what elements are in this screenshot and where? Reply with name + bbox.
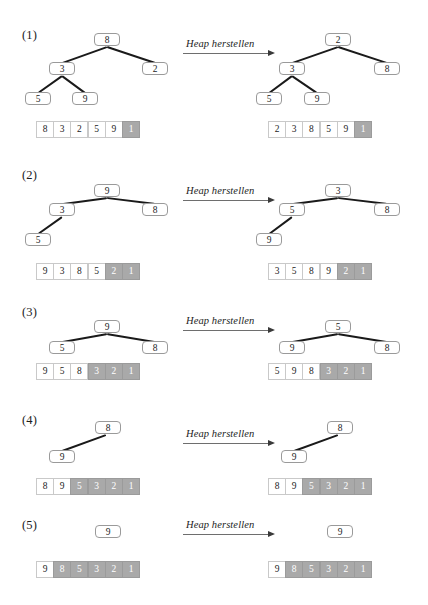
step-label-4: (4) <box>22 413 37 428</box>
array-cell: 9 <box>337 121 355 138</box>
arrow-line <box>183 53 269 54</box>
array-cell: 3 <box>285 121 303 138</box>
array-right-5: 985321 <box>268 561 372 578</box>
array-cell: 8 <box>53 561 71 578</box>
tree-node: 8 <box>142 203 168 216</box>
arrow-label: Heap herstellen <box>186 428 254 439</box>
tree-node: 9 <box>327 525 353 538</box>
array-cell: 1 <box>354 263 372 280</box>
array-cell: 5 <box>88 263 106 280</box>
array-cell: 2 <box>105 478 123 495</box>
array-cell: 8 <box>285 561 303 578</box>
array-cell: 3 <box>320 561 338 578</box>
tree-node: 9 <box>94 184 120 197</box>
array-cell: 5 <box>320 121 338 138</box>
array-cell: 5 <box>268 363 286 380</box>
tree-node: 2 <box>142 62 168 75</box>
tree-node: 8 <box>327 421 353 434</box>
array-cell: 5 <box>70 478 88 495</box>
tree-node: 8 <box>94 33 120 46</box>
array-cell: 1 <box>122 121 140 138</box>
step-label-5: (5) <box>22 518 37 533</box>
array-right-2: 358921 <box>268 263 372 280</box>
tree-node: 9 <box>72 92 98 105</box>
array-left-1: 832591 <box>36 121 140 138</box>
array-cell: 2 <box>337 363 355 380</box>
array-cell: 3 <box>88 561 106 578</box>
tree-node: 3 <box>325 184 351 197</box>
arrow-line <box>183 534 269 535</box>
tree-node: 5 <box>256 92 282 105</box>
array-left-5: 985321 <box>36 561 140 578</box>
array-cell: 1 <box>354 363 372 380</box>
array-cell: 1 <box>354 121 372 138</box>
tree-node: 9 <box>279 341 305 354</box>
array-cell: 8 <box>36 121 54 138</box>
tree-node: 9 <box>95 525 121 538</box>
tree-node: 5 <box>279 203 305 216</box>
array-cell: 8 <box>268 478 286 495</box>
array-cell: 5 <box>70 561 88 578</box>
array-cell: 2 <box>105 263 123 280</box>
array-cell: 1 <box>354 478 372 495</box>
array-cell: 8 <box>302 363 320 380</box>
arrow-head-icon <box>268 50 275 56</box>
array-cell: 1 <box>122 263 140 280</box>
step-label-1: (1) <box>22 28 37 43</box>
tree-node: 3 <box>49 203 75 216</box>
array-cell: 8 <box>36 478 54 495</box>
tree-node: 9 <box>304 92 330 105</box>
arrow-line <box>183 443 269 444</box>
array-cell: 1 <box>354 561 372 578</box>
array-cell: 9 <box>105 121 123 138</box>
array-cell: 2 <box>105 561 123 578</box>
array-cell: 9 <box>53 478 71 495</box>
arrow-head-icon <box>268 531 275 537</box>
arrow-head-icon <box>268 440 275 446</box>
array-cell: 3 <box>268 263 286 280</box>
array-cell: 9 <box>36 561 54 578</box>
arrow-line <box>183 200 269 201</box>
array-cell: 9 <box>36 363 54 380</box>
array-cell: 3 <box>53 263 71 280</box>
tree-node: 5 <box>325 320 351 333</box>
array-cell: 9 <box>285 478 303 495</box>
array-left-4: 895321 <box>36 478 140 495</box>
array-cell: 1 <box>122 561 140 578</box>
arrow-label: Heap herstellen <box>186 38 254 49</box>
tree-node: 8 <box>374 341 400 354</box>
tree-node: 9 <box>49 450 75 463</box>
array-cell: 8 <box>70 263 88 280</box>
heap-sort-figure: (1)Heap herstellen8325983259123859238591… <box>0 0 428 605</box>
array-right-3: 598321 <box>268 363 372 380</box>
array-cell: 9 <box>268 561 286 578</box>
tree-node: 3 <box>279 62 305 75</box>
tree-node: 9 <box>281 450 307 463</box>
tree-node: 8 <box>374 62 400 75</box>
step-label-2: (2) <box>22 168 37 183</box>
tree-node: 8 <box>374 203 400 216</box>
array-cell: 5 <box>53 363 71 380</box>
array-cell: 2 <box>337 561 355 578</box>
arrow-head-icon <box>268 197 275 203</box>
array-right-4: 895321 <box>268 478 372 495</box>
array-cell: 9 <box>36 263 54 280</box>
step-label-3: (3) <box>22 305 37 320</box>
arrow-line <box>183 330 269 331</box>
tree-node: 5 <box>25 233 51 246</box>
arrow-label: Heap herstellen <box>186 315 254 326</box>
array-cell: 3 <box>320 478 338 495</box>
array-cell: 5 <box>302 561 320 578</box>
tree-node: 2 <box>325 33 351 46</box>
array-cell: 8 <box>302 121 320 138</box>
array-cell: 2 <box>268 121 286 138</box>
array-cell: 3 <box>88 478 106 495</box>
array-cell: 1 <box>122 363 140 380</box>
tree-node: 9 <box>94 320 120 333</box>
arrow-label: Heap herstellen <box>186 185 254 196</box>
array-cell: 2 <box>70 121 88 138</box>
array-left-3: 958321 <box>36 363 140 380</box>
tree-node: 3 <box>49 62 75 75</box>
array-cell: 5 <box>302 478 320 495</box>
arrow-label: Heap herstellen <box>186 519 254 530</box>
